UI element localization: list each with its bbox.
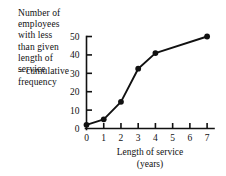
x-tick-label: 5	[170, 133, 175, 143]
x-tick-label: 7	[205, 133, 210, 143]
y-tick-label: 20	[70, 87, 80, 97]
y-tick-label: 50	[70, 32, 80, 42]
y-tick-label: 10	[70, 106, 80, 116]
data-point-marker	[153, 50, 159, 56]
x-axis-tick-labels: 01234567	[84, 133, 210, 143]
x-tick-label: 4	[153, 133, 158, 143]
data-point-marker	[84, 122, 90, 128]
x-axis	[86, 123, 215, 129]
data-point-marker	[118, 99, 124, 105]
cumulative-frequency-figure: Number of employees with less than given…	[0, 0, 226, 176]
y-tick-label: 0	[75, 124, 80, 134]
y-axis-tick-labels: 01020304050	[70, 32, 80, 134]
x-tick-label: 0	[84, 133, 89, 143]
x-tick-label: 3	[136, 133, 141, 143]
x-tick-label: 1	[101, 133, 106, 143]
y-tick-label: 40	[70, 50, 80, 60]
data-series-line	[87, 37, 208, 125]
data-point-markers	[84, 34, 210, 128]
data-point-marker	[204, 34, 210, 40]
x-tick-label: 2	[119, 133, 124, 143]
x-tick-label: 6	[188, 133, 193, 143]
data-point-marker	[101, 116, 107, 122]
x-axis-title: Length of service (years)	[86, 147, 214, 170]
data-point-marker	[135, 66, 141, 72]
y-tick-label: 30	[70, 69, 80, 79]
y-axis	[87, 37, 93, 130]
